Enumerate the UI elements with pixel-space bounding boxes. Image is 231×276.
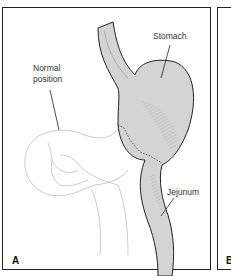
stomach-label: Stomach bbox=[153, 31, 187, 41]
normal-position-label-1: Normal bbox=[33, 63, 60, 73]
stomach-organ bbox=[98, 22, 194, 276]
normal-position-leader bbox=[50, 90, 59, 130]
normal-position-label-2: position bbox=[33, 74, 62, 84]
normal-position-intestine bbox=[25, 129, 128, 255]
panel-b-letter: B bbox=[226, 255, 231, 266]
diagram-svg bbox=[0, 0, 231, 276]
jejunum-label: Jejunum bbox=[167, 187, 199, 197]
panel-a-letter: A bbox=[12, 255, 19, 266]
